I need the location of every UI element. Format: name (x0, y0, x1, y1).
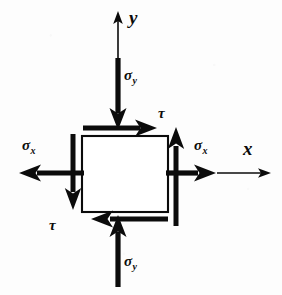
x-axis-label: x (243, 139, 253, 158)
sigma-glyph: σ (124, 67, 132, 83)
sigma-y-top-label: σy (124, 68, 137, 83)
y-axis (113, 11, 123, 58)
sigma-glyph: σ (194, 137, 202, 153)
tau-right-arrow (168, 127, 184, 226)
tau-bottom-label: τ (49, 218, 56, 233)
tau-bottom-arrow (91, 211, 168, 228)
sigma-glyph: σ (22, 137, 30, 153)
stress-square (82, 136, 168, 212)
tau-bottom-arrowhead (91, 211, 113, 228)
tau-right-arrowhead (168, 127, 184, 149)
sigma-glyph: σ (124, 253, 132, 269)
x-axis (217, 168, 271, 178)
sigma-subscript: x (203, 145, 208, 156)
sigma-y-bottom-label: σy (124, 254, 137, 269)
stress-element-figure: y x σy σy σx σx τ τ (0, 0, 282, 295)
sigma-subscript: y (133, 75, 137, 86)
sigma-subscript: y (133, 261, 137, 272)
stress-element-drawing (0, 0, 282, 295)
sigma-x-left-label: σx (22, 138, 35, 153)
y-axis-label: y (129, 8, 137, 27)
sigma-subscript: x (31, 145, 36, 156)
tau-top-label: τ (158, 106, 165, 121)
sigma-y-bottom-arrow (110, 215, 127, 287)
sigma-x-right-label: σx (194, 138, 207, 153)
